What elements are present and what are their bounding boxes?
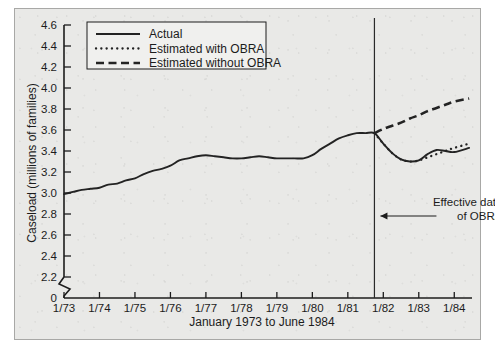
- series-estimated-with-obra: [374, 133, 469, 161]
- x-tick-label: 1/77: [195, 302, 217, 314]
- y-tick-label: 3.6: [41, 124, 57, 136]
- y-tick-label: 4.0: [41, 82, 57, 94]
- y-tick-label: 2.8: [41, 208, 57, 220]
- legend-label: Actual: [149, 27, 182, 41]
- x-axis-title: January 1973 to June 1984: [189, 315, 335, 329]
- y-tick-labels: 2.22.42.62.83.03.23.43.63.84.04.24.44.6: [41, 19, 58, 283]
- y-axis-title: Caseload (millions of families): [25, 83, 39, 242]
- x-tick-label: 1/80: [301, 302, 323, 314]
- y-axis: 2.22.42.62.83.03.23.43.63.84.04.24.44.6 …: [25, 19, 71, 304]
- x-tick-label: 1/84: [443, 302, 466, 314]
- legend-label: Estimated without OBRA: [149, 56, 281, 70]
- x-tick-labels: 1/731/741/751/761/771/781/791/801/811/82…: [53, 302, 466, 314]
- x-axis: 1/731/741/751/761/771/781/791/801/811/82…: [53, 292, 472, 329]
- x-tick-label: 1/81: [337, 302, 359, 314]
- obra-annotation-line2: of OBRA: [457, 210, 495, 222]
- obra-annotation-arrow-icon: [380, 213, 436, 220]
- x-tick-marks: [64, 292, 454, 298]
- y-tick-marks: [64, 25, 71, 277]
- y-tick-label: 2.6: [41, 229, 57, 241]
- chart-plot: 2.22.42.62.83.03.23.43.63.84.04.24.44.6 …: [0, 0, 495, 358]
- y-tick-label: 4.2: [41, 61, 57, 73]
- series-actual: [64, 132, 469, 194]
- y-tick-label: 4.4: [41, 40, 58, 52]
- x-tick-label: 1/79: [266, 302, 288, 314]
- series-estimated-without-obra: [374, 99, 469, 134]
- y-tick-label: 3.8: [41, 103, 57, 115]
- legend-label: Estimated with OBRA: [149, 42, 264, 56]
- chart-legend: ActualEstimated with OBRAEstimated witho…: [87, 22, 281, 70]
- x-tick-label: 1/82: [372, 302, 394, 314]
- y-tick-label: 3.0: [41, 187, 57, 199]
- y-tick-label: 3.4: [41, 145, 58, 157]
- x-tick-label: 1/83: [408, 302, 430, 314]
- x-tick-label: 1/73: [53, 302, 75, 314]
- x-tick-label: 1/75: [124, 302, 146, 314]
- y-tick-label: 3.2: [41, 166, 57, 178]
- y-tick-label: 4.6: [41, 19, 57, 31]
- obra-annotation-line1: Effective date: [433, 196, 495, 208]
- y-tick-label: 2.2: [41, 271, 57, 283]
- obra-annotation: Effective date of OBRA: [380, 196, 495, 222]
- figure-container: 2.22.42.62.83.03.23.43.63.84.04.24.44.6 …: [0, 0, 495, 358]
- x-tick-label: 1/78: [230, 302, 252, 314]
- x-tick-label: 1/76: [159, 302, 181, 314]
- x-tick-label: 1/74: [88, 302, 111, 314]
- y-tick-label: 2.4: [41, 250, 58, 262]
